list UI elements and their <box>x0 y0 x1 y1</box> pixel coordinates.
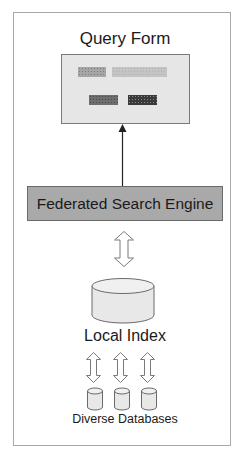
database-cylinder-icon <box>87 387 103 411</box>
federated-search-engine-box: Federated Search Engine <box>27 186 223 221</box>
local-index-label: Local Index <box>61 327 189 345</box>
double-arrow-icon <box>86 352 101 383</box>
database-cylinder-icon <box>114 387 130 411</box>
diverse-databases-label: Diverse Databases <box>61 412 189 426</box>
database-cylinder-icon <box>141 387 157 411</box>
double-arrow-icon <box>113 352 128 383</box>
double-arrow-icon <box>114 231 134 267</box>
local-index-cylinder-icon <box>91 278 155 324</box>
federated-search-engine-label: Federated Search Engine <box>37 195 214 213</box>
double-arrow-icon <box>140 352 155 383</box>
